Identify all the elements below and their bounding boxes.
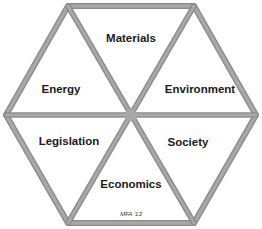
segment-label-economics: Economics (100, 178, 161, 190)
segment-label-legislation: Legislation (39, 135, 100, 147)
segment-label-materials: Materials (106, 32, 156, 44)
segment-label-society: Society (168, 136, 210, 148)
center-hub (125, 109, 137, 121)
segment-label-energy: Energy (42, 83, 82, 95)
hexagon-diagram: Materials Environment Society Economics … (0, 0, 262, 229)
credit-text: MFA '13 (120, 211, 142, 217)
segment-label-environment: Environment (165, 83, 235, 95)
